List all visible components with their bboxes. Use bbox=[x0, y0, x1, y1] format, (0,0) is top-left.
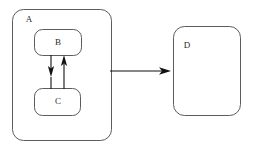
edge-a-to-d[interactable] bbox=[110, 67, 171, 74]
node-b-label: B bbox=[55, 37, 61, 47]
node-d-label: D bbox=[184, 40, 191, 50]
diagram-canvas: A B C D bbox=[0, 0, 255, 152]
block-diagram: A B C D bbox=[0, 0, 255, 152]
node-c-label: C bbox=[55, 96, 61, 106]
node-a-label: A bbox=[26, 14, 33, 24]
